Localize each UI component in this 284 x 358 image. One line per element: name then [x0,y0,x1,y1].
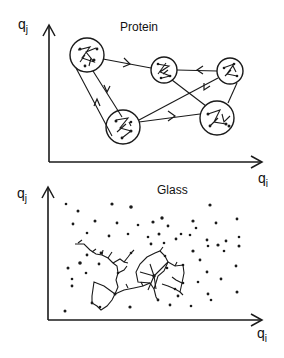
glass-x-axis-symbol: q [257,325,265,341]
protein-panel [43,25,262,168]
glass-path [75,240,184,310]
glass-x-axis-subscript: i [265,333,267,344]
protein-y-axis-symbol: q [18,16,26,32]
glass-y-axis-subscript: j [25,193,27,204]
figure [0,0,284,358]
protein-panel-title: Protein [120,20,158,34]
protein-x-axis-symbol: q [258,170,266,186]
protein-y-axis-label: qj [18,16,28,35]
glass-minima-dots [64,202,241,312]
glass-x-axis-label: qi [257,325,267,344]
protein-transitions [76,58,237,136]
glass-panel [42,187,262,326]
glass-y-axis-symbol: q [17,185,25,201]
protein-y-axis-subscript: j [26,24,28,35]
protein-state-e [200,101,234,135]
protein-substates [78,47,237,138]
protein-state-b [151,57,177,83]
glass-y-axis-label: qj [17,185,27,204]
protein-state-a [70,38,104,72]
protein-x-axis-subscript: i [266,178,268,189]
glass-panel-title: Glass [157,183,188,197]
protein-x-axis-label: qi [258,170,268,189]
